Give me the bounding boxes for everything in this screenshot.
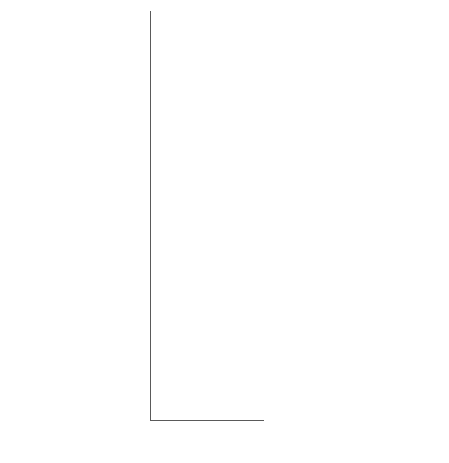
plot-area [150,11,263,420]
x-axis-line [150,420,264,421]
y-axis-line [150,11,151,420]
category-labels [0,0,143,420]
bar-chart [0,0,449,463]
